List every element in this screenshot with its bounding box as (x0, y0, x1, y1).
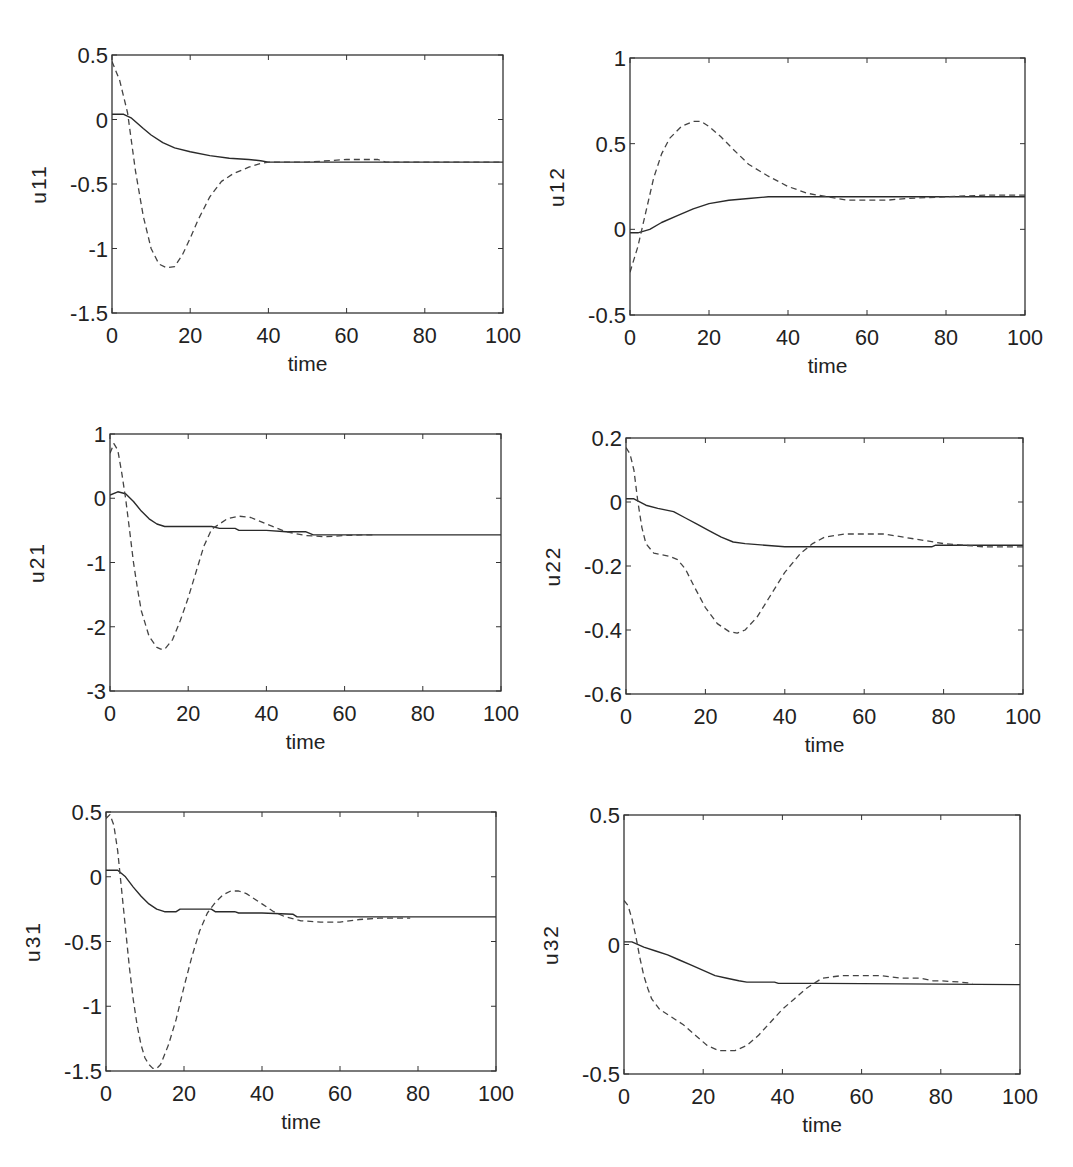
solid-line-series (626, 499, 1023, 547)
y-axis-label: u12 (545, 166, 568, 207)
figure: 020406080100-1.5-1-0.500.5timeu110204060… (0, 0, 1073, 1167)
x-tick-label: 40 (250, 1081, 274, 1106)
x-tick-label: 0 (106, 323, 118, 348)
y-tick-label: -0.2 (584, 554, 622, 579)
y-axis-label: u22 (541, 545, 564, 586)
y-tick-label: 1 (614, 46, 626, 71)
y-tick-label: 0 (608, 933, 620, 958)
dashed-line-series (112, 62, 503, 268)
x-tick-label: 100 (478, 1081, 514, 1106)
dashed-line-series (626, 448, 1023, 634)
x-tick-label: 60 (333, 701, 357, 726)
y-tick-label: 0.5 (77, 43, 108, 68)
x-tick-label: 0 (624, 325, 636, 350)
x-tick-label: 100 (1002, 1084, 1038, 1109)
x-tick-label: 60 (335, 323, 359, 348)
plot-area (110, 444, 501, 650)
x-tick-label: 60 (855, 325, 879, 350)
y-tick-label: 0 (94, 486, 106, 511)
x-tick-label: 20 (176, 701, 200, 726)
y-tick-label: 0.5 (589, 803, 620, 828)
x-tick-label: 0 (104, 701, 116, 726)
x-tick-label: 0 (620, 704, 632, 729)
x-tick-label: 80 (406, 1081, 430, 1106)
x-axis-label: time (281, 1110, 321, 1133)
y-tick-label: 0.5 (595, 132, 626, 157)
subplot-u11: 020406080100-1.5-1-0.500.5timeu11 (27, 43, 521, 375)
plot-area (624, 901, 1020, 1051)
x-axis-label: time (286, 730, 326, 753)
x-tick-label: 40 (256, 323, 280, 348)
plot-area (630, 121, 1025, 272)
x-tick-label: 100 (483, 701, 519, 726)
y-tick-label: 0.5 (71, 800, 102, 825)
plot-area (112, 62, 503, 268)
dashed-line-series (106, 815, 410, 1069)
subplot-u22: 020406080100-0.6-0.4-0.200.2timeu22 (541, 426, 1041, 756)
axes-frame (626, 438, 1023, 694)
figure-canvas: 020406080100-1.5-1-0.500.5timeu110204060… (0, 0, 1073, 1167)
x-tick-label: 20 (172, 1081, 196, 1106)
x-tick-label: 80 (929, 1084, 953, 1109)
axes-frame (630, 58, 1025, 315)
x-tick-label: 40 (776, 325, 800, 350)
x-tick-label: 80 (932, 704, 956, 729)
solid-line-series (110, 492, 501, 535)
y-tick-label: 0.2 (591, 426, 622, 451)
solid-line-series (112, 114, 503, 162)
subplot-u12: 020406080100-0.500.51timeu12 (545, 46, 1043, 377)
y-tick-label: -1.5 (64, 1059, 102, 1084)
x-tick-label: 20 (178, 323, 202, 348)
axes-frame (106, 812, 496, 1071)
solid-line-series (630, 197, 1025, 233)
subplot-u31: 020406080100-1.5-1-0.500.5timeu31 (21, 800, 514, 1133)
y-axis-label: u21 (25, 542, 48, 583)
axes-frame (110, 434, 501, 691)
x-tick-label: 20 (691, 1084, 715, 1109)
plot-area (106, 815, 496, 1069)
x-axis-label: time (802, 1113, 842, 1136)
x-tick-label: 80 (411, 701, 435, 726)
y-tick-label: 0 (90, 865, 102, 890)
y-tick-label: -0.4 (584, 618, 622, 643)
y-axis-label: u11 (27, 164, 50, 203)
y-tick-label: -0.5 (582, 1062, 620, 1087)
y-tick-label: -0.5 (64, 930, 102, 955)
y-tick-label: -3 (86, 679, 106, 704)
x-tick-label: 40 (770, 1084, 794, 1109)
x-tick-label: 60 (850, 1084, 874, 1109)
x-tick-label: 0 (100, 1081, 112, 1106)
subplot-u21: 020406080100-3-2-101timeu21 (25, 422, 519, 753)
x-tick-label: 40 (773, 704, 797, 729)
x-tick-label: 80 (413, 323, 437, 348)
dashed-line-series (110, 444, 376, 650)
y-tick-label: -0.6 (584, 682, 622, 707)
y-tick-label: 0 (614, 217, 626, 242)
x-tick-label: 40 (254, 701, 278, 726)
x-tick-label: 80 (934, 325, 958, 350)
x-tick-label: 20 (697, 325, 721, 350)
x-tick-label: 20 (693, 704, 717, 729)
dashed-line-series (624, 901, 973, 1051)
x-tick-label: 100 (485, 323, 521, 348)
x-tick-label: 60 (852, 704, 876, 729)
x-axis-label: time (805, 733, 845, 756)
y-axis-label: u32 (539, 924, 562, 965)
y-tick-label: -1 (86, 551, 106, 576)
y-tick-label: -2 (86, 615, 106, 640)
y-tick-label: -1 (88, 237, 108, 262)
y-tick-label: -0.5 (70, 172, 108, 197)
plot-area (626, 448, 1023, 634)
axes-frame (624, 815, 1020, 1074)
y-tick-label: -1 (82, 994, 102, 1019)
x-tick-label: 100 (1007, 325, 1043, 350)
x-tick-label: 60 (328, 1081, 352, 1106)
subplot-u32: 020406080100-0.500.5timeu32 (539, 803, 1038, 1136)
solid-line-series (624, 942, 1020, 985)
solid-line-series (106, 870, 496, 917)
x-tick-label: 0 (618, 1084, 630, 1109)
y-tick-label: 0 (610, 490, 622, 515)
x-axis-label: time (288, 352, 328, 375)
x-tick-label: 100 (1005, 704, 1041, 729)
y-tick-label: -0.5 (588, 303, 626, 328)
